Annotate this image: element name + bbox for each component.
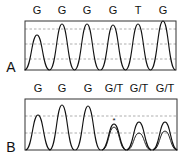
panel-a: GGGGTGA (6, 4, 176, 75)
base-call-label: G (159, 4, 168, 16)
panel-label: A (6, 59, 16, 75)
asterisk-annotation: * (112, 116, 115, 125)
trace-peak (127, 122, 152, 150)
trace-peak-secondary (153, 131, 177, 150)
base-call-label: G/T (130, 82, 149, 94)
base-call-label: G (34, 82, 43, 94)
trace-peak (25, 35, 50, 70)
base-call-label: G (84, 82, 93, 94)
trace-peak (153, 122, 178, 150)
base-call-label: G (58, 4, 67, 16)
plot-frame (25, 21, 176, 70)
trace-peak (151, 21, 176, 70)
base-call-label: G (58, 82, 67, 94)
base-call-label: G (33, 4, 42, 16)
plot-frame (25, 99, 177, 150)
base-call-label: G/T (105, 82, 124, 94)
base-call-label: G (83, 4, 92, 16)
trace-peak (50, 105, 75, 150)
trace-peak-secondary (127, 133, 151, 150)
panel-label: B (6, 139, 15, 155)
trace-peak (75, 24, 100, 70)
trace-peak (102, 124, 127, 150)
chromatogram-figure: GGGGTGAGGGG/TG/TG/T*B (0, 0, 186, 160)
base-call-label: T (135, 4, 142, 16)
trace-peak (50, 24, 75, 70)
trace-peak (126, 24, 151, 70)
base-call-label: G (109, 4, 118, 16)
panel-b: GGGG/TG/TG/T*B (6, 82, 177, 155)
trace-peak (26, 115, 51, 150)
trace-peak-secondary (102, 127, 126, 150)
trace-peak (76, 106, 101, 150)
base-call-label: G/T (156, 82, 175, 94)
trace-peak (101, 25, 126, 70)
